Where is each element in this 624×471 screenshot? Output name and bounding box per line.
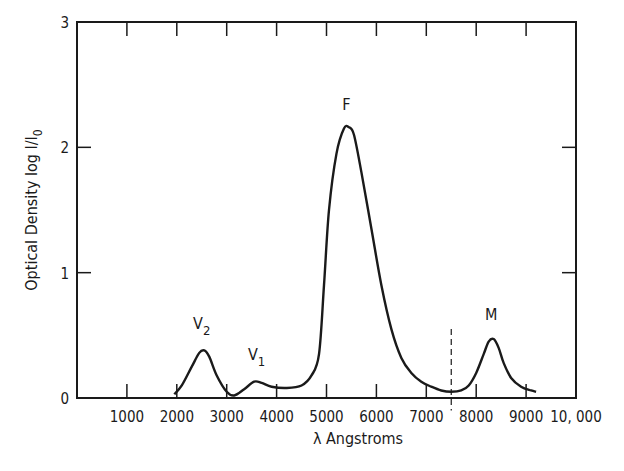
peak-label: V2 xyxy=(193,314,210,338)
y-tick-labels: 0123 xyxy=(60,14,69,408)
series-group xyxy=(174,126,536,396)
x-tick-labels: 10002000300040005000600070008000900010, … xyxy=(110,408,602,426)
peak-label-main: V xyxy=(248,345,258,364)
peak-label: F xyxy=(342,95,350,114)
x-tick-label: 1000 xyxy=(110,408,144,426)
peak-label-main: V xyxy=(193,314,203,333)
x-tick-label: 6000 xyxy=(359,408,393,426)
optical-density-chart: 10002000300040005000600070008000900010, … xyxy=(0,0,624,471)
y-axis-title-main: Optical Density log I/I xyxy=(22,136,41,291)
peak-label: M xyxy=(485,305,497,324)
y-ticks xyxy=(77,147,91,272)
plot-frame xyxy=(77,22,576,398)
y-axis-title-subscript: 0 xyxy=(31,129,45,136)
peak-label-main: M xyxy=(485,305,497,324)
x-tick-label: 5000 xyxy=(309,408,343,426)
x-tick-label: 4000 xyxy=(259,408,293,426)
x-top-ticks xyxy=(127,22,526,36)
y-tick-label: 3 xyxy=(60,14,69,32)
y-tick-label: 0 xyxy=(60,390,69,408)
x-tick-label: 7000 xyxy=(409,408,443,426)
y-tick-label: 1 xyxy=(60,265,69,283)
x-tick-label: 3000 xyxy=(210,408,244,426)
x-tick-label: 9000 xyxy=(509,408,543,426)
peak-label: V1 xyxy=(248,345,265,369)
peak-label-main: F xyxy=(342,95,350,114)
x-axis-title: λ Angstroms xyxy=(313,429,403,448)
spectrum-line xyxy=(174,126,536,396)
y-right-ticks xyxy=(562,147,576,272)
x-tick-label: 10, 000 xyxy=(550,408,602,426)
x-ticks xyxy=(127,384,526,398)
x-tick-label: 8000 xyxy=(459,408,493,426)
peak-label-subscript: 2 xyxy=(203,323,210,338)
peak-annotations: V2V1FM xyxy=(193,95,497,370)
x-tick-label: 2000 xyxy=(160,408,194,426)
y-tick-label: 2 xyxy=(60,139,69,157)
peak-label-subscript: 1 xyxy=(258,354,265,369)
y-axis-title: Optical Density log I/I0 xyxy=(22,129,45,291)
